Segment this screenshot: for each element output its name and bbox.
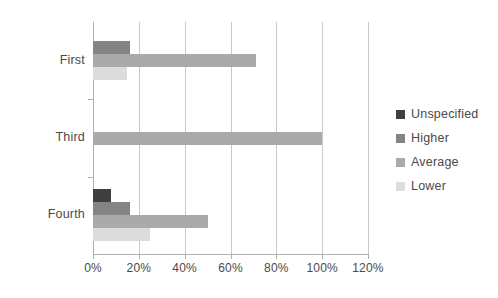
legend-label: Unspecified bbox=[411, 107, 479, 121]
bar-fourth-higher bbox=[93, 202, 130, 215]
x-axis-tick-label: 120% bbox=[338, 261, 398, 275]
bar-first-average bbox=[93, 54, 256, 67]
legend-swatch-icon bbox=[396, 134, 405, 143]
legend-label: Higher bbox=[411, 131, 449, 145]
category-label-third: Third bbox=[10, 130, 85, 144]
legend-swatch-icon bbox=[396, 158, 405, 167]
legend-swatch-icon bbox=[396, 182, 405, 191]
bar-first-higher bbox=[93, 41, 130, 54]
x-axis-tick bbox=[368, 255, 369, 259]
legend-item-average: Average bbox=[396, 155, 479, 169]
x-axis-tick bbox=[322, 255, 323, 259]
category-label-fourth: Fourth bbox=[10, 207, 85, 221]
bar-fourth-lower bbox=[93, 228, 150, 241]
x-axis-tick bbox=[93, 255, 94, 259]
legend-label: Lower bbox=[411, 179, 446, 193]
legend-item-unspecified: Unspecified bbox=[396, 107, 479, 121]
bar-first-lower bbox=[93, 67, 127, 80]
bar-fourth-unspecified bbox=[93, 189, 111, 202]
category-label-first: First bbox=[10, 53, 85, 67]
legend-item-higher: Higher bbox=[396, 131, 479, 145]
x-axis-tick bbox=[231, 255, 232, 259]
bar-fourth-average bbox=[93, 215, 208, 228]
legend-item-lower: Lower bbox=[396, 179, 479, 193]
legend-swatch-icon bbox=[396, 110, 405, 119]
legend-label: Average bbox=[411, 155, 459, 169]
chart-legend: UnspecifiedHigherAverageLower bbox=[396, 107, 479, 193]
x-axis-tick bbox=[139, 255, 140, 259]
x-axis-line bbox=[93, 254, 369, 255]
bar-chart: FirstThirdFourth 0%20%40%60%80%100%120% … bbox=[0, 0, 498, 298]
plot-area bbox=[93, 22, 368, 254]
gridline bbox=[368, 22, 369, 254]
x-axis-tick bbox=[276, 255, 277, 259]
x-axis-tick bbox=[185, 255, 186, 259]
bar-third-average bbox=[93, 132, 322, 145]
